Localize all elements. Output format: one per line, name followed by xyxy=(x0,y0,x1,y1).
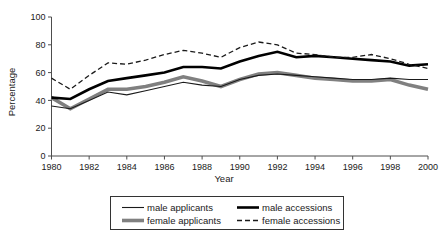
x-tick-label: 1982 xyxy=(79,162,99,172)
x-axis-tick-labels: 1980198219841986198819901992199419961998… xyxy=(41,162,438,172)
x-tick-label: 2000 xyxy=(418,162,438,172)
series-female-applicants xyxy=(52,73,429,109)
x-tick-label: 1994 xyxy=(305,162,325,172)
y-axis-tick-marks xyxy=(48,17,52,156)
legend-label-female-accessions: female accessions xyxy=(262,215,340,226)
x-axis-title: Year xyxy=(214,173,233,184)
x-tick-label: 1996 xyxy=(343,162,363,172)
x-tick-label: 1998 xyxy=(380,162,400,172)
y-tick-label: 100 xyxy=(30,12,45,22)
chart-container: Percentage 020406080100 1980198219841986… xyxy=(0,0,441,244)
series-group xyxy=(52,42,429,109)
line-chart: Percentage 020406080100 1980198219841986… xyxy=(0,0,441,244)
y-tick-label: 60 xyxy=(35,68,45,78)
y-tick-label: 80 xyxy=(35,40,45,50)
y-tick-label: 20 xyxy=(35,123,45,133)
legend-label-female-applicants: female applicants xyxy=(147,215,221,226)
x-tick-label: 1980 xyxy=(41,162,61,172)
y-tick-label: 0 xyxy=(40,151,45,161)
series-male-applicants xyxy=(52,74,429,109)
x-tick-label: 1986 xyxy=(154,162,174,172)
x-tick-label: 1990 xyxy=(230,162,250,172)
legend-label-male-applicants: male applicants xyxy=(147,202,213,213)
legend-label-male-accessions: male accessions xyxy=(262,202,332,213)
x-tick-label: 1984 xyxy=(117,162,137,172)
x-tick-label: 1992 xyxy=(267,162,287,172)
x-tick-label: 1988 xyxy=(192,162,212,172)
x-axis-tick-marks xyxy=(52,156,429,160)
y-axis-title: Percentage xyxy=(6,68,17,117)
y-tick-label: 40 xyxy=(35,96,45,106)
y-axis-tick-labels: 020406080100 xyxy=(30,12,45,161)
